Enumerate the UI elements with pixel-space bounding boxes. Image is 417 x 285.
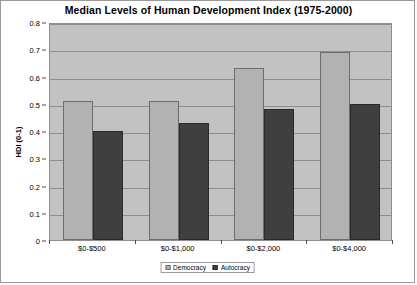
bar-group xyxy=(50,24,136,240)
y-tick-label: 0.8 xyxy=(30,19,40,28)
bar-autocracy[interactable] xyxy=(179,123,209,240)
x-tick-mark xyxy=(221,240,222,244)
x-tick-label: $0-$4,000 xyxy=(332,244,366,253)
chart-frame: Median Levels of Human Development Index… xyxy=(0,0,415,283)
legend-item-democracy[interactable]: Democracy xyxy=(165,264,206,271)
bar-group xyxy=(307,24,393,240)
y-tick-mark xyxy=(42,104,46,105)
y-tick-label: 0.2 xyxy=(30,182,40,191)
x-tick-label: $0-$2,000 xyxy=(246,244,280,253)
y-tick-label: 0 xyxy=(36,237,40,246)
x-tick-label: $0-$500 xyxy=(78,244,106,253)
y-tick-mark xyxy=(42,77,46,78)
y-axis-tick-labels: 00.10.20.30.40.50.60.70.8 xyxy=(1,23,46,243)
chart-title: Median Levels of Human Development Index… xyxy=(1,4,416,16)
legend-swatch-icon xyxy=(165,265,170,270)
bar-group xyxy=(136,24,222,240)
y-tick-mark xyxy=(42,186,46,187)
y-tick-mark xyxy=(42,23,46,24)
plot-area xyxy=(49,23,392,241)
x-tick-mark xyxy=(306,240,307,244)
y-tick-label: 0.1 xyxy=(30,209,40,218)
x-tick-mark xyxy=(49,240,50,244)
bar-democracy[interactable] xyxy=(320,52,350,240)
y-tick-mark xyxy=(42,50,46,51)
bars-layer xyxy=(50,24,391,240)
y-tick-mark xyxy=(42,213,46,214)
y-tick-label: 0.4 xyxy=(30,128,40,137)
bar-group xyxy=(222,24,308,240)
bar-autocracy[interactable] xyxy=(350,104,380,240)
chart-legend: DemocracyAutocracy xyxy=(160,262,255,273)
x-axis-tick-labels: $0-$500$0-$1,000$0-$2,000$0-$4,000 xyxy=(49,244,392,260)
y-tick-label: 0.7 xyxy=(30,46,40,55)
y-tick-label: 0.6 xyxy=(30,73,40,82)
bar-democracy[interactable] xyxy=(63,101,93,240)
y-tick-label: 0.5 xyxy=(30,100,40,109)
legend-label: Autocracy xyxy=(221,264,250,271)
bar-autocracy[interactable] xyxy=(264,109,294,240)
legend-swatch-icon xyxy=(213,265,218,270)
y-tick-mark xyxy=(42,132,46,133)
bar-autocracy[interactable] xyxy=(93,131,123,240)
y-tick-label: 0.3 xyxy=(30,155,40,164)
legend-item-autocracy[interactable]: Autocracy xyxy=(213,264,250,271)
bar-democracy[interactable] xyxy=(149,101,179,240)
bar-democracy[interactable] xyxy=(234,68,264,240)
y-tick-mark xyxy=(42,241,46,242)
x-tick-label: $0-$1,000 xyxy=(161,244,195,253)
x-tick-mark xyxy=(392,240,393,244)
legend-label: Democracy xyxy=(173,264,206,271)
x-tick-mark xyxy=(135,240,136,244)
y-tick-mark xyxy=(42,159,46,160)
